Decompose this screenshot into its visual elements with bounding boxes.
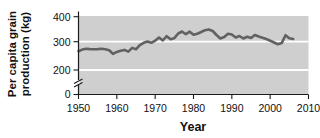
y-tick-label-300: 300: [53, 36, 71, 48]
per-capita-grain-production-chart: 02003004001950196019701980199020002010 P…: [0, 0, 320, 138]
x-tick-label-1970: 1970: [143, 102, 167, 114]
x-axis-title: Year: [180, 120, 206, 134]
chart-canvas: 02003004001950196019701980199020002010: [0, 0, 320, 138]
y-axis-title-line1: Per capita grain: [6, 11, 19, 97]
x-tick-label-2000: 2000: [258, 102, 282, 114]
x-tick-label-2010: 2010: [297, 102, 320, 114]
y-tick-label-400: 400: [53, 11, 71, 23]
y-axis-title-line2: production (kg): [19, 11, 32, 97]
y-axis-title: Per capita grain production (kg): [6, 11, 32, 97]
x-tick-label-1980: 1980: [182, 102, 206, 114]
y-tick-label-0: 0: [65, 88, 71, 100]
x-tick-label-1950: 1950: [67, 102, 91, 114]
plot-area: [79, 16, 309, 95]
y-tick-label-200: 200: [53, 64, 71, 76]
x-tick-label-1990: 1990: [220, 102, 244, 114]
x-tick-label-1960: 1960: [105, 102, 129, 114]
